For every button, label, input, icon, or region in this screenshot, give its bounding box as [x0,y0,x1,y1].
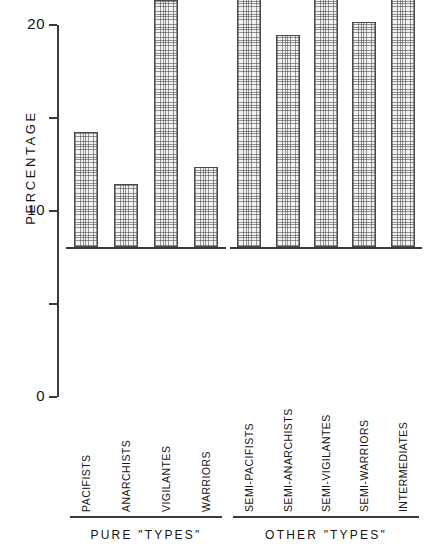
bar-chart: PERCENTAGE 20100 PACIFISTSANARCHISTSVIGI… [0,0,429,550]
group-rule-other-types [233,516,419,518]
bar [114,184,138,247]
group-name-pure-types: PURE "TYPES" [70,528,222,542]
bars-other-types [230,0,422,247]
bar [74,132,98,247]
category-label-text: ANARCHISTS [120,440,132,512]
bar-group-other-types [230,0,422,247]
category-label-text: SEMI-WARRIORS [358,420,370,512]
bar [276,35,300,247]
category-label-text: WARRIORS [200,451,212,512]
category-label: ANARCHISTS [114,400,138,512]
category-label: SEMI-PACIFISTS [237,400,261,512]
category-label-text: VIGILANTES [160,446,172,512]
category-label: VIGILANTES [154,400,178,512]
group-rule-pure-types [70,516,222,518]
category-label-text: SEMI-ANARCHISTS [282,408,294,512]
bars-pure-types [66,0,226,247]
category-labels-other-types: SEMI-PACIFISTSSEMI-ANARCHISTSSEMI-VIGILA… [230,400,422,512]
bar [314,0,338,247]
x-axis-line-pure [66,247,226,249]
category-label: SEMI-ANARCHISTS [276,400,300,512]
category-labels-pure-types: PACIFISTSANARCHISTSVIGILANTESWARRIORS [66,400,226,512]
category-label-text: INTERMEDIATES [397,422,409,512]
bar [154,0,178,247]
category-label-text: PACIFISTS [80,454,92,512]
category-label-text: SEMI-VIGILANTES [320,414,332,512]
category-label: WARRIORS [194,400,218,512]
group-name-other-types: OTHER "TYPES" [233,528,419,542]
bar [391,0,415,247]
bar-group-pure-types [66,0,226,247]
category-label: PACIFISTS [74,400,98,512]
category-label: SEMI-VIGILANTES [314,400,338,512]
category-label: SEMI-WARRIORS [352,400,376,512]
bar [194,167,218,247]
category-label: INTERMEDIATES [391,400,415,512]
bar [352,22,376,247]
x-axis-line-other [230,247,422,249]
plot-area [0,0,429,400]
category-label-text: SEMI-PACIFISTS [243,423,255,512]
bar [237,0,261,247]
